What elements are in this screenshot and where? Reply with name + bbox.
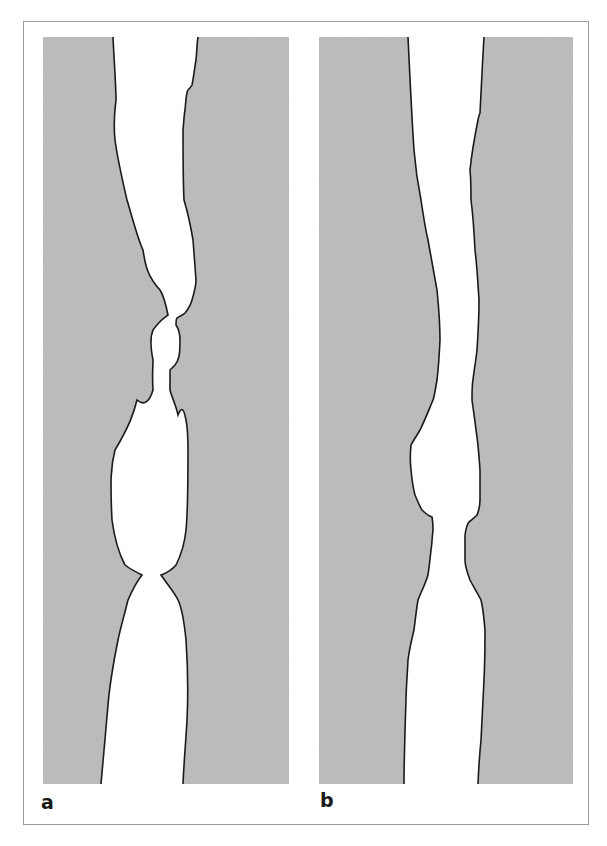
panel-b [319,37,573,784]
figure-drawing [0,0,607,846]
panel-b-right-wall [465,37,573,784]
panel-label-a: a [41,793,54,812]
panel-a-left-wall [43,37,168,784]
panel-a [43,37,289,784]
panel-b-left-wall [319,37,440,784]
panel-label-b: b [320,791,334,810]
